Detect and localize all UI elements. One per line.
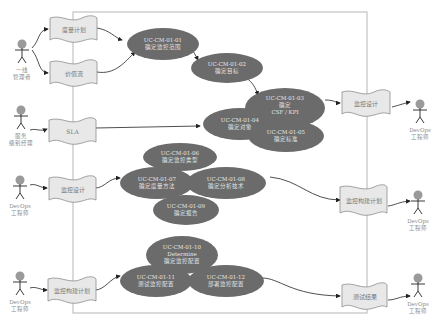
use-case-label: UC-CM-01-01 确定监控范围 [127, 37, 199, 51]
actor-icon [413, 100, 427, 124]
actor-label: 一线 管理者 [2, 67, 42, 81]
actor-label: 服务 级别经理 [1, 133, 41, 147]
use-case-label: UC-CM-01-06 确定监控类型 [144, 150, 216, 164]
document-label: 监控构建计划 [48, 287, 96, 294]
actor-icon [411, 274, 425, 298]
actor-icon [15, 40, 29, 64]
use-case-label: UC-CM-01-11 测试监控配置 [120, 274, 192, 288]
document-label: 度量计划 [50, 26, 97, 33]
document-label: 监控构建计划 [340, 197, 387, 204]
actor-label: DevOps 工程师 [400, 127, 440, 141]
actor-label: DevOps 工程师 [0, 203, 40, 217]
actor-icon [13, 272, 27, 296]
document-label: 监控设计 [49, 186, 96, 193]
use-case-label: UC-CM-01-02 确定目标 [191, 61, 263, 75]
use-case-label: UC-CM-01-08 确定分析技术 [190, 176, 262, 190]
document-label: 测试结果 [342, 293, 387, 300]
document-label: SLA [49, 128, 96, 135]
actor-icon [13, 176, 27, 200]
use-case-label: UC-CM-01-05 确定标准 [250, 129, 322, 143]
use-case-label: UC-CM-01-09 确定报告 [150, 203, 222, 217]
document-label: 价值流 [50, 70, 97, 77]
use-case-label: UC-CM-01-12 部署监控配置 [190, 274, 262, 288]
actor-icon [411, 191, 425, 215]
actor-label: DevOps 工程师 [398, 301, 438, 315]
actor-icon [14, 106, 28, 130]
actor-label: DevOps 工程师 [0, 299, 40, 313]
use-case-label: UC-CM-01-10 Determine 确定监控配置 [146, 244, 218, 265]
use-case-label: UC-CM-01-07 确定度量方法 [121, 176, 193, 190]
actor-label: DevOps 工程师 [398, 218, 438, 232]
document-label: 监控设计 [342, 100, 390, 107]
use-case-label: UC-CM-01-03 确定 CSF / KPI [249, 95, 321, 116]
